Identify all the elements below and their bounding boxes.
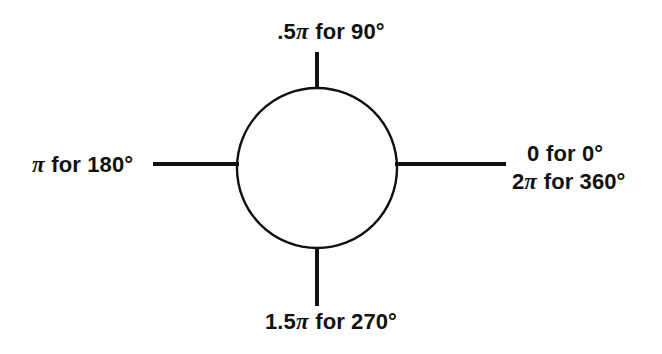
pi-symbol-top: π [296,19,309,44]
pi-symbol-right-2: π [524,169,537,194]
label-0-degrees-value: 0° [582,141,603,166]
label-360-connector: for [538,169,580,194]
label-0-value: 0 [527,141,539,166]
label-270-degrees: 1.5π for 270° [0,308,662,336]
label-0-degrees: 0 for 0° [512,140,625,168]
label-180-connector: for [45,152,87,177]
label-180-degrees: π for 180° [32,151,133,179]
label-360-degrees: 2π for 360° [512,168,625,196]
label-270-value: 1.5 [265,309,296,334]
label-90-degrees: .5π for 90° [0,18,662,46]
label-270-degrees-value: 270° [351,309,397,334]
label-360-value: 2 [512,169,524,194]
label-90-value: .5 [277,19,296,44]
label-270-connector: for [309,309,351,334]
label-180-degrees-value: 180° [87,152,133,177]
pi-symbol-bottom: π [296,309,309,334]
label-360-degrees-value: 360° [580,169,626,194]
label-0-connector: for [540,141,582,166]
label-0-and-360-degrees: 0 for 0° 2π for 360° [512,140,625,196]
unit-circle-diagram: .5π for 90° π for 180° 1.5π for 270° 0 f… [0,0,662,354]
label-90-degrees-value: 90° [351,19,385,44]
label-90-connector: for [309,19,351,44]
pi-symbol-left: π [32,152,45,177]
